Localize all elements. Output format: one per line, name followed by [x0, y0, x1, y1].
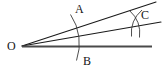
vertex-label-O: O — [7, 40, 16, 52]
point-label-A: A — [75, 3, 84, 15]
point-label-B: B — [83, 55, 91, 67]
upper-ray — [22, 2, 156, 46]
point-label-C: C — [141, 9, 149, 21]
geometry-figure: O A B C — [0, 0, 165, 71]
